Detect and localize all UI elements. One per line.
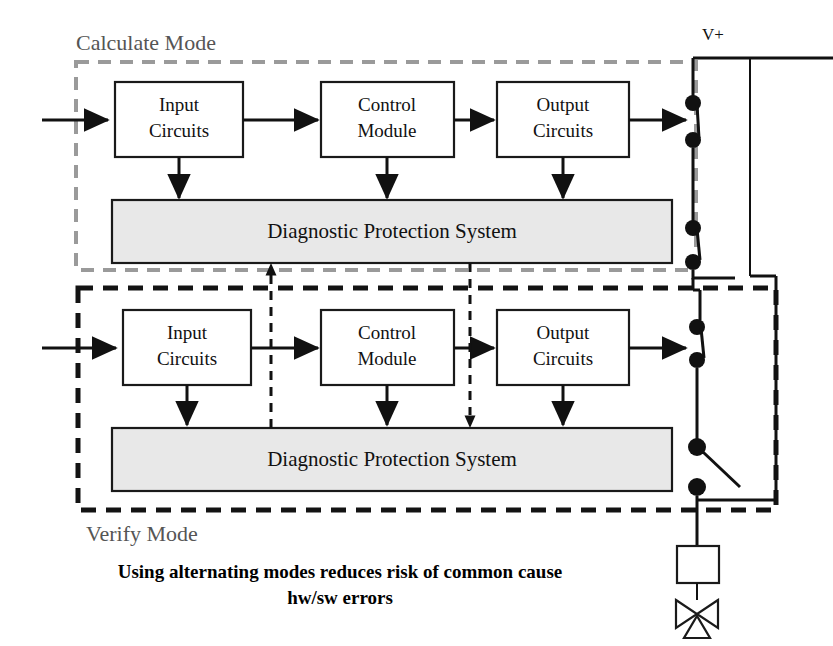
power-return-bus [750,58,833,500]
caption-line-1: Using alternating modes reduces risk of … [118,561,563,582]
calculate-input-circuits-line2: Circuits [149,120,209,141]
verify-input-circuits-block: Input Circuits [123,310,251,385]
calculate-output-circuits-block: Output Circuits [497,82,629,157]
solenoid-coil [677,546,719,600]
calculate-output-circuits-line1: Output [537,94,591,115]
calculate-mode-label: Calculate Mode [76,30,216,55]
switch-contact-2[interactable] [685,220,701,270]
verify-control-module-line2: Module [357,348,416,369]
verify-output-circuits-block: Output Circuits [497,310,629,385]
calculate-input-circuits-line1: Input [159,94,200,115]
switch-contact-1[interactable] [685,95,701,222]
verify-mode-label: Verify Mode [86,521,198,546]
control-valve-icon [676,600,718,638]
calculate-control-module-line2: Module [357,120,416,141]
verify-dps-label: Diagnostic Protection System [267,447,517,471]
calculate-control-module-line1: Control [358,94,416,115]
switch-contact-3[interactable] [689,319,705,440]
ladder-transition-wiring [693,270,735,320]
verify-output-circuits-line2: Circuits [533,348,593,369]
verify-diagnostic-protection-system: Diagnostic Protection System [112,428,672,491]
diagram-root: Calculate Mode Verify Mode Input Circuit… [0,0,833,646]
calculate-dps-label: Diagnostic Protection System [267,219,517,243]
verify-control-module-line1: Control [358,322,416,343]
calculate-input-circuits-block: Input Circuits [115,82,243,157]
switch-contact-4-open[interactable] [688,438,740,546]
calculate-control-module-block: Control Module [321,82,454,157]
caption-line-2: hw/sw errors [287,587,393,608]
power-rail-top [693,58,833,97]
verify-input-circuits-line2: Circuits [157,348,217,369]
verify-input-circuits-line1: Input [167,322,208,343]
verify-dps-feed-arrows [187,385,563,425]
verify-output-circuits-line1: Output [537,322,591,343]
verify-control-module-block: Control Module [321,310,454,385]
calculate-output-circuits-line2: Circuits [533,120,593,141]
calculate-dps-feed-arrows [179,157,563,198]
power-rail-label: V+ [702,25,724,44]
calculate-diagnostic-protection-system: Diagnostic Protection System [112,200,672,263]
